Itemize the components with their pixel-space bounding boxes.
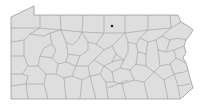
map-svg [0, 0, 207, 112]
location-marker-dot [111, 25, 114, 28]
pennsylvania-county-map [0, 0, 207, 112]
state-outline [11, 6, 193, 99]
